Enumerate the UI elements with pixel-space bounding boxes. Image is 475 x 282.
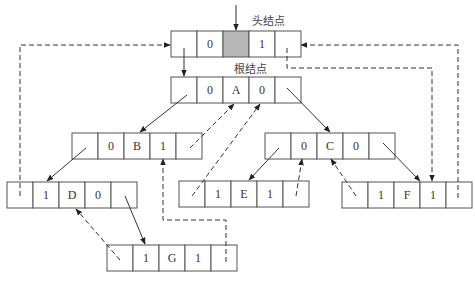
node-cell <box>72 133 98 159</box>
node-g: 1G1 <box>107 245 237 271</box>
cell-value: D <box>68 188 77 202</box>
threaded-binary-tree-diagram: 010A00B10C01D01E11F11G1 头结点 根结点 <box>0 0 475 282</box>
node-a: 0A0 <box>171 77 301 103</box>
node-cell <box>211 245 237 271</box>
node-cell <box>107 245 133 271</box>
cell-value: 0 <box>95 188 101 202</box>
node-cell <box>446 182 472 208</box>
node-f: 1F1 <box>342 182 472 208</box>
root-node-label: 根结点 <box>234 62 267 76</box>
cell-value: 0 <box>353 139 359 153</box>
cell-value: G <box>168 251 177 265</box>
node-c: 0C0 <box>265 133 395 159</box>
a-to-b-arrow <box>140 95 187 132</box>
cell-value: 0 <box>207 37 213 51</box>
cell-value: 0 <box>301 139 307 153</box>
b-to-d-arrow <box>47 148 86 181</box>
node-b: 0B1 <box>72 133 202 159</box>
cell-value: 1 <box>378 188 384 202</box>
cell-value: E <box>240 187 247 201</box>
cell-value: 1 <box>259 37 265 51</box>
head-node-label: 头结点 <box>252 15 285 28</box>
cell-value: C <box>326 139 334 153</box>
node-cell <box>223 31 249 57</box>
cell-value: 1 <box>143 251 149 265</box>
node-e: 1E1 <box>179 181 309 207</box>
c-to-e-arrow <box>249 148 279 180</box>
node-d: 1D0 <box>7 182 137 208</box>
node-cell <box>369 133 395 159</box>
d-pred-thread <box>20 45 170 196</box>
cell-value: A <box>232 83 241 97</box>
c-to-f-arrow <box>383 143 420 181</box>
node-cell <box>265 133 291 159</box>
cell-value: 1 <box>215 187 221 201</box>
node-cell <box>176 133 202 159</box>
node-cell <box>275 31 301 57</box>
cell-value: 0 <box>207 83 213 97</box>
cell-value: 1 <box>195 251 201 265</box>
head-rchild-thread <box>287 48 432 181</box>
cell-value: 0 <box>259 83 265 97</box>
node-cell <box>275 77 301 103</box>
cell-value: 1 <box>267 187 273 201</box>
node-cell <box>111 182 137 208</box>
b-succ-thread <box>190 104 234 148</box>
cell-value: 1 <box>430 188 436 202</box>
node-cell <box>179 181 205 207</box>
cell-value: 1 <box>43 188 49 202</box>
cell-value: 1 <box>160 139 166 153</box>
node-head: 01 <box>171 31 301 57</box>
cell-value: B <box>133 139 141 153</box>
cell-value: F <box>404 188 411 202</box>
a-to-c-arrow <box>287 88 330 132</box>
g-pred-thread <box>76 209 120 260</box>
node-cell <box>171 77 197 103</box>
cell-value: 0 <box>108 139 114 153</box>
